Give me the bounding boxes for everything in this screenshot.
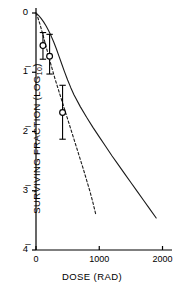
axes [32,8,172,250]
y-tick-label: 0 [2,6,28,17]
y-axis-title: SURVIVING FRACTION (LOG10) [31,38,44,238]
y-axis-subscript: 10 [36,67,43,76]
x-tick-label: 1000 [74,254,124,264]
y-tick-label: 1̅ [2,65,28,76]
y-tick-label: 4̅ [2,243,28,254]
x-tick-label: 0 [11,254,61,264]
survival-curve-figure: 010002000 01̅2̅3̅4̅ DOSE (RAD) SURVIVING… [0,0,184,289]
solid-curve [36,13,156,218]
data-markers [40,43,65,116]
y-tick-label: 2̅ [2,125,28,136]
x-tick-label: 2000 [138,254,185,264]
data-point-marker [47,53,53,59]
y-tick-label: 3̅ [2,184,28,195]
curves [36,13,156,218]
data-point-marker [60,110,66,116]
x-axis-title: DOSE (RAD) [0,271,184,282]
